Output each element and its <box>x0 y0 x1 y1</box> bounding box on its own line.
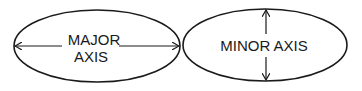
minor-label: MINOR AXIS <box>220 37 308 54</box>
ellipse-axes-diagram: MAJOR AXIS MINOR AXIS <box>0 0 362 91</box>
major-axis-figure: MAJOR AXIS <box>14 10 180 82</box>
major-label-line2: AXIS <box>74 48 108 65</box>
major-label-line1: MAJOR <box>68 31 121 48</box>
minor-axis-figure: MINOR AXIS <box>183 9 347 81</box>
